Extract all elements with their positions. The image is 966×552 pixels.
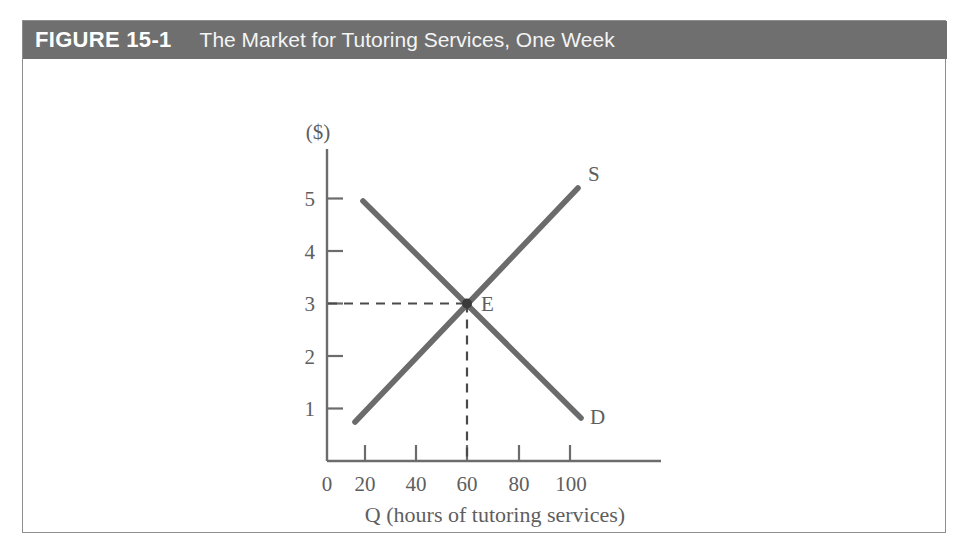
supply-curve-label: S xyxy=(588,162,600,186)
figure-root: FIGURE 15-1 The Market for Tutoring Serv… xyxy=(0,0,966,552)
y-tick-label-1: 1 xyxy=(305,397,316,421)
y-tick-label-5: 5 xyxy=(305,187,316,211)
x-tick-label-80: 80 xyxy=(509,472,530,496)
x-tick-label-20: 20 xyxy=(355,472,376,496)
figure-header-bar: FIGURE 15-1 The Market for Tutoring Serv… xyxy=(23,21,947,59)
price-unit-label: ($) xyxy=(306,120,331,144)
figure-frame: FIGURE 15-1 The Market for Tutoring Serv… xyxy=(22,20,946,533)
x-axis-title: Q (hours of tutoring services) xyxy=(365,502,625,527)
x-tick-label-40: 40 xyxy=(406,472,427,496)
equilibrium-label: E xyxy=(481,292,494,316)
y-tick-label-4: 4 xyxy=(305,240,316,264)
y-tick-label-3: 3 xyxy=(305,292,316,316)
supply-demand-chart: ($) 1 2 3 4 5 0 20 40 60 80 100 S D E xyxy=(23,59,947,532)
figure-title: The Market for Tutoring Services, One We… xyxy=(200,28,615,52)
plot-area: ($) 1 2 3 4 5 0 20 40 60 80 100 S D E xyxy=(23,59,947,532)
equilibrium-point-marker xyxy=(462,299,472,309)
demand-curve xyxy=(363,201,581,418)
x-tick-label-60: 60 xyxy=(457,472,478,496)
demand-curve-label: D xyxy=(590,405,605,429)
x-tick-label-100: 100 xyxy=(555,472,587,496)
origin-label: 0 xyxy=(322,472,333,496)
figure-number: FIGURE 15-1 xyxy=(35,27,172,53)
y-tick-label-2: 2 xyxy=(305,345,316,369)
